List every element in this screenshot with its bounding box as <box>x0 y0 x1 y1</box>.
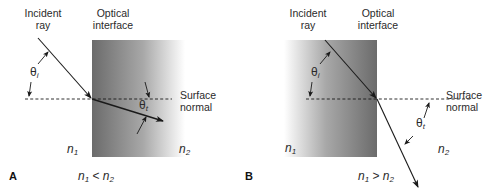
n-symbol: n <box>285 141 292 155</box>
normal-label-line1: Surface <box>180 89 216 101</box>
n-sub: 1 <box>292 147 296 156</box>
panel-letter-a: A <box>9 170 17 182</box>
incident-label-line1: Incident <box>18 7 68 19</box>
theta-i-arrow-up <box>38 52 48 64</box>
interface-label-line1: Optical <box>353 7 403 19</box>
incident-label-line1: Incident <box>283 7 333 19</box>
theta-sub: t <box>146 104 148 113</box>
comparison-operator: > <box>369 169 383 183</box>
incident-label-line2: ray <box>18 19 68 31</box>
surface-normal-label: Surface normal <box>180 89 216 113</box>
surface-normal-label: Surface normal <box>446 89 482 113</box>
n1-label: n1 <box>67 143 78 159</box>
n-symbol: n <box>358 169 365 183</box>
condition-label-b: n1 > n2 <box>358 170 394 186</box>
theta-i-label: θi <box>311 66 319 82</box>
panel-b <box>284 40 472 187</box>
theta-t-arrow-down <box>405 136 413 144</box>
n-symbol: n <box>438 142 445 156</box>
n-symbol: n <box>179 142 186 156</box>
n2-label: n2 <box>438 143 449 159</box>
normal-label-line2: normal <box>180 101 216 113</box>
theta-symbol: θ <box>139 98 146 112</box>
theta-i-label: θi <box>30 66 38 82</box>
incident-label-line2: ray <box>283 19 333 31</box>
refraction-diagram <box>0 0 496 193</box>
n-sub: 2 <box>390 175 394 184</box>
incident-ray-label: Incident ray <box>18 7 68 31</box>
incident-ray <box>38 38 91 98</box>
theta-symbol: θ <box>311 65 318 79</box>
n-sub: 2 <box>445 148 449 157</box>
medium-1-block <box>284 40 377 157</box>
n1-label: n1 <box>285 142 296 158</box>
normal-label-line1: Surface <box>446 89 482 101</box>
n-symbol: n <box>67 142 74 156</box>
theta-t-label: θt <box>139 99 148 115</box>
interface-label-line1: Optical <box>88 7 138 19</box>
theta-sub: t <box>423 122 425 131</box>
panel-letter-b: B <box>245 170 253 182</box>
theta-i-arrow-down <box>29 82 31 96</box>
n-symbol: n <box>78 169 85 183</box>
optical-interface-label: Optical interface <box>88 7 138 31</box>
theta-t-arrow-up <box>424 103 429 118</box>
n-sub: 2 <box>110 175 114 184</box>
theta-t-label: θt <box>416 117 425 133</box>
theta-sub: i <box>318 71 320 80</box>
n-symbol: n <box>383 169 390 183</box>
theta-sub: i <box>37 71 39 80</box>
n-symbol: n <box>103 169 110 183</box>
comparison-operator: < <box>89 169 103 183</box>
interface-label-line2: interface <box>353 19 403 31</box>
n2-label: n2 <box>179 143 190 159</box>
optical-interface-label: Optical interface <box>353 7 403 31</box>
normal-label-line2: normal <box>446 101 482 113</box>
n-sub: 1 <box>74 148 78 157</box>
theta-symbol: θ <box>30 65 37 79</box>
n-sub: 2 <box>186 148 190 157</box>
incident-ray-label: Incident ray <box>283 7 333 31</box>
theta-symbol: θ <box>416 116 423 130</box>
condition-label-a: n1 < n2 <box>78 170 114 186</box>
interface-label-line2: interface <box>88 19 138 31</box>
panel-a <box>25 38 185 157</box>
